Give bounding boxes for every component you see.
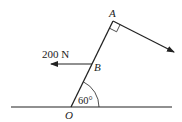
label-b: B xyxy=(94,61,101,73)
diagram-canvas: A B O 200 N 60° xyxy=(0,0,182,122)
label-o: O xyxy=(65,109,73,121)
label-angle: 60° xyxy=(78,95,93,106)
force-arrow-a xyxy=(113,21,174,52)
label-a: A xyxy=(108,7,116,19)
label-force: 200 N xyxy=(42,48,69,60)
